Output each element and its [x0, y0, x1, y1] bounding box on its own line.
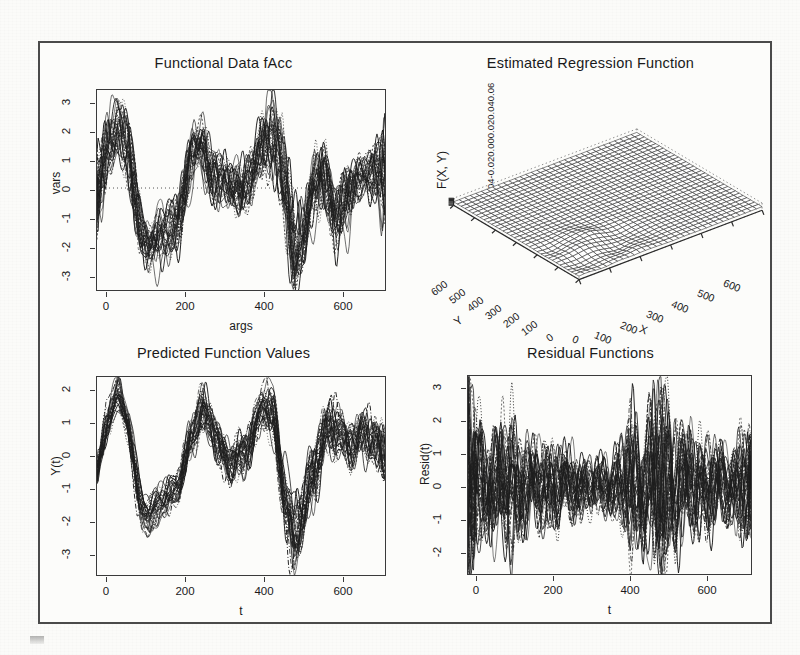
axis-tick	[106, 292, 107, 297]
panel-estimated-regression-function: Estimated Regression Function F(X, Y) -0…	[407, 43, 774, 335]
functional-curve	[97, 100, 386, 290]
axis-tick	[513, 243, 516, 246]
axis-tick	[461, 553, 466, 554]
axis-tick	[555, 267, 558, 270]
ytick-label: 3	[431, 379, 443, 395]
ytick-label: 0	[431, 478, 443, 494]
ytick-label: 2	[60, 381, 72, 397]
y-axis-label-vars: vars	[49, 161, 63, 205]
axis-tick	[90, 190, 95, 191]
panel-title-predicted-function-values: Predicted Function Values	[40, 345, 407, 361]
ytick-label: -2	[60, 510, 72, 532]
ytick-label: 2	[431, 412, 443, 428]
xtick-label: 0	[462, 584, 490, 596]
axis-tick	[553, 576, 554, 581]
axis-tick	[534, 255, 537, 258]
axis-tick	[762, 210, 764, 215]
ytick-label: -2	[431, 541, 443, 563]
functional-curve	[97, 393, 386, 558]
axis-tick	[461, 388, 466, 389]
axis-tick	[90, 161, 95, 162]
axis-tick	[106, 577, 107, 582]
x-axis-label-t: t	[96, 604, 386, 618]
ytick-label: 3	[60, 94, 72, 110]
axis-tick	[343, 577, 344, 582]
ytick-label: -1	[431, 508, 443, 530]
ytick-label: -3	[60, 265, 72, 287]
plot-area-residual-functions	[467, 375, 752, 575]
figure-frame: Functional Data fAcc 3 2 1 0 -1 -2 -3 va…	[38, 41, 772, 624]
panel-functional-data-facc: Functional Data fAcc 3 2 1 0 -1 -2 -3 va…	[40, 43, 407, 335]
xtick-label: 0	[92, 300, 120, 312]
functional-curve	[97, 378, 386, 576]
axis-tick	[461, 421, 466, 422]
axis-tick	[90, 555, 95, 556]
axis-tick	[492, 230, 495, 233]
plot-area-functional-data-facc	[96, 89, 386, 291]
axis-tick	[264, 577, 265, 582]
scan-artifact-mark	[30, 636, 44, 644]
xtick-label: 400	[616, 584, 644, 596]
ytick-label: 2	[60, 123, 72, 139]
axis-tick	[90, 489, 95, 490]
y-axis-label-yt: Y(t)	[49, 440, 63, 492]
xtick-label: 200	[171, 585, 199, 597]
xtick-label: 0	[92, 585, 120, 597]
axis-tick	[90, 390, 95, 391]
panel-residual-functions: Residual Functions 3 2 1 0 -1 -2 Resid(t…	[407, 335, 774, 626]
axis-tick	[90, 132, 95, 133]
axis-tick	[185, 577, 186, 582]
axis-tick	[264, 292, 265, 297]
axis-tick	[671, 245, 673, 250]
perspective-surface-plot	[429, 71, 769, 329]
axis-tick	[185, 292, 186, 297]
axis-tick	[90, 103, 95, 104]
axis-tick	[610, 268, 612, 273]
axis-tick	[471, 218, 474, 221]
axis-tick	[90, 219, 95, 220]
xtick-label: 600	[693, 584, 721, 596]
axis-tick	[90, 522, 95, 523]
xtick-label: 200	[171, 300, 199, 312]
ytick-label: 1	[60, 414, 72, 430]
axis-tick	[343, 292, 344, 297]
xtick-label: 400	[250, 585, 278, 597]
axis-tick	[90, 423, 95, 424]
axis-tick	[630, 576, 631, 581]
axis-tick	[640, 257, 642, 262]
functional-curve	[97, 112, 386, 279]
axis-tick	[461, 520, 466, 521]
axis-tick	[90, 456, 95, 457]
plot-area-predicted-function-values	[96, 376, 386, 576]
xtick-label: 200	[539, 584, 567, 596]
axis-tick	[461, 487, 466, 488]
x-axis-label-args: args	[96, 319, 386, 333]
axis-tick	[90, 248, 95, 249]
panel-title-estimated-regression-function: Estimated Regression Function	[407, 55, 774, 71]
axis-tick	[579, 280, 581, 285]
curve-bundle-predicted	[97, 377, 386, 576]
axis-tick	[90, 277, 95, 278]
axis-tick	[461, 454, 466, 455]
xtick-label: 600	[329, 300, 357, 312]
curve-bundle-residual	[468, 376, 752, 575]
xtick-label: 600	[329, 585, 357, 597]
axis-tick	[732, 222, 734, 227]
x-axis-label-t: t	[467, 603, 752, 617]
curve-bundle-facc	[97, 90, 386, 291]
ytick-label: -3	[60, 543, 72, 565]
ytick-label: -1	[60, 207, 72, 229]
y-axis-label-residt: Resid(t)	[418, 432, 432, 496]
ytick-label: 1	[431, 445, 443, 461]
panel-predicted-function-values: Predicted Function Values 2 1 0 -1 -2 -3…	[40, 335, 407, 626]
axis-tick	[701, 233, 703, 238]
xtick-label: 400	[250, 300, 278, 312]
panel-title-functional-data-facc: Functional Data fAcc	[40, 55, 407, 71]
ytick-label: -2	[60, 236, 72, 258]
axis-tick	[707, 576, 708, 581]
axis-tick	[576, 280, 579, 283]
panel-title-residual-functions: Residual Functions	[407, 345, 774, 361]
axis-tick	[476, 576, 477, 581]
